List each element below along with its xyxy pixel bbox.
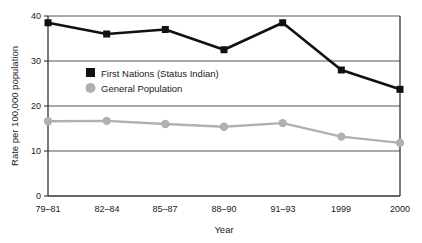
y-tick-label-20: 20 <box>31 101 41 111</box>
black-square-marker-icon <box>86 68 95 77</box>
x-tick-label-0: 79–81 <box>35 204 60 214</box>
y-axis-title: Rate per 100,000 population <box>9 46 20 166</box>
data-point <box>103 31 110 38</box>
data-point <box>45 19 52 26</box>
data-point <box>161 120 169 128</box>
x-tick-label-6: 2000 <box>390 204 410 214</box>
data-point <box>279 19 286 26</box>
data-point <box>44 117 52 125</box>
gray-circle-marker-icon <box>86 83 96 93</box>
data-point <box>102 117 110 125</box>
y-tick-label-10: 10 <box>31 146 41 156</box>
chart-container: 40 30 20 10 0 Rate per 100,000 populatio… <box>0 0 422 243</box>
data-point <box>338 67 345 74</box>
y-tick-label-40: 40 <box>31 11 41 21</box>
data-point <box>337 132 345 140</box>
data-point <box>221 46 228 53</box>
data-point <box>162 26 169 33</box>
x-tick-label-2: 85–87 <box>152 204 177 214</box>
x-tick-label-1: 82–84 <box>94 204 119 214</box>
x-tick-label-5: 1999 <box>331 204 351 214</box>
data-point <box>278 119 286 127</box>
legend-label-general-population: General Population <box>101 83 182 94</box>
data-point <box>396 139 404 147</box>
x-axis-title: Year <box>214 224 233 235</box>
y-tick-label-30: 30 <box>31 56 41 66</box>
x-tick-label-3: 88–90 <box>211 204 236 214</box>
line-chart: 40 30 20 10 0 Rate per 100,000 populatio… <box>0 0 422 243</box>
legend-label-first-nations: First Nations (Status Indian) <box>101 68 219 79</box>
data-point <box>220 123 228 131</box>
y-tick-label-0: 0 <box>36 191 41 201</box>
data-point <box>397 86 404 93</box>
x-tick-label-4: 91–93 <box>270 204 295 214</box>
